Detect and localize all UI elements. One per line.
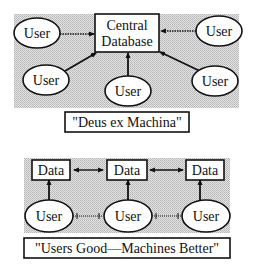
- top-caption: "Deus ex Machina": [72, 115, 181, 130]
- user-label: User: [115, 209, 142, 224]
- user-label: User: [193, 209, 220, 224]
- user-node-bottom-left: User: [23, 65, 69, 95]
- data-box-1: Data: [32, 160, 70, 180]
- central-database-box: Central Database: [95, 14, 159, 52]
- user-label: User: [36, 209, 63, 224]
- data-label: Data: [38, 163, 65, 178]
- user-node-top-left: User: [14, 18, 60, 48]
- user-label: User: [33, 73, 60, 88]
- user-node-2: User: [104, 200, 152, 232]
- top-diagram: Central Database User User User User Use…: [14, 14, 242, 132]
- user-node-top-right: User: [196, 16, 242, 46]
- user-label: User: [24, 26, 51, 41]
- bottom-caption-box: "Users Good—Machines Better": [24, 238, 230, 258]
- top-caption-box: "Deus ex Machina": [65, 112, 189, 132]
- user-node-bottom-right: User: [192, 66, 238, 96]
- central-database-line1: Central: [106, 18, 147, 33]
- user-label: User: [206, 24, 233, 39]
- data-box-3: Data: [186, 160, 224, 180]
- user-node-1: User: [25, 200, 73, 232]
- user-node-3: User: [182, 200, 230, 232]
- data-label: Data: [114, 163, 141, 178]
- data-label: Data: [192, 163, 219, 178]
- diagram-canvas: Central Database User User User User Use…: [0, 0, 254, 271]
- bottom-caption: "Users Good—Machines Better": [35, 241, 219, 256]
- bottom-diagram: Data Data Data User User User "Users Goo…: [24, 158, 230, 258]
- data-box-2: Data: [107, 160, 147, 180]
- user-label: User: [115, 84, 142, 99]
- user-node-bottom-center: User: [105, 76, 151, 106]
- central-database-line2: Database: [101, 34, 152, 49]
- user-label: User: [202, 74, 229, 89]
